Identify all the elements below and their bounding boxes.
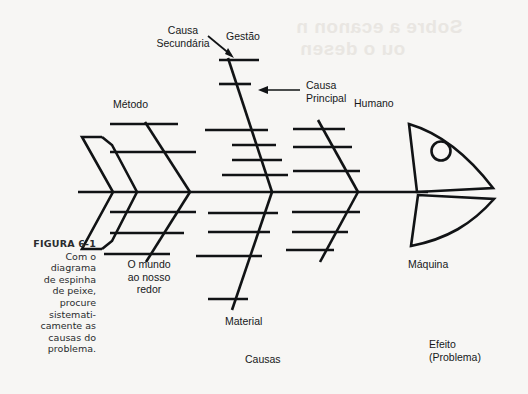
- label-causa-principal-line2: Principal: [306, 92, 346, 105]
- branch-metodo: [110, 122, 196, 192]
- label-gestao: Gestão: [226, 30, 260, 43]
- caption-line-3: de espinha: [18, 274, 96, 286]
- figure-caption: FIGURA 6-1 Com o diagrama de espinha de …: [18, 238, 96, 355]
- label-causa-principal-line1: Causa: [306, 79, 346, 92]
- label-causas: Causas: [245, 353, 281, 366]
- label-efeito-problema: Efeito (Problema): [429, 338, 481, 363]
- caption-line-6: sistemati-: [18, 309, 96, 321]
- arrow-causa-secundaria-head: [225, 48, 234, 58]
- label-mundo-line1: O mundo: [118, 258, 180, 271]
- label-mundo-line3: redor: [118, 283, 180, 296]
- branch-humano: [293, 120, 360, 192]
- branch-maquina-rib: [320, 192, 358, 262]
- fish-head-lower-fin: [411, 195, 494, 246]
- figure-container: Sobre a ecanon n ou o desen: [0, 0, 528, 394]
- branch-gestao-rib: [228, 58, 272, 192]
- branch-mundo-rib: [146, 192, 190, 262]
- caption-line-9: problema.: [18, 343, 96, 355]
- branch-material: [196, 192, 278, 310]
- caption-line-1: Com o: [18, 251, 96, 263]
- fish-eye: [432, 142, 451, 161]
- label-causa-secundaria-line2: Secundária: [146, 37, 220, 50]
- label-efeito-line1: Efeito: [429, 338, 481, 351]
- label-causa-secundaria-line1: Causa: [146, 24, 220, 37]
- caption-line-2: diagrama: [18, 262, 96, 274]
- label-mundo-line2: ao nosso: [118, 271, 180, 284]
- branch-material-rib: [232, 192, 272, 310]
- branch-metodo-rib: [145, 122, 190, 192]
- label-maquina: Máquina: [408, 258, 448, 271]
- label-o-mundo-ao-nosso-redor: O mundo ao nosso redor: [118, 258, 180, 296]
- branch-gestao-lower-subs: [205, 130, 288, 175]
- label-metodo: Método: [113, 98, 148, 111]
- branch-gestao: [219, 58, 272, 192]
- caption-line-7: camente as: [18, 320, 96, 332]
- fish-head-upper-fin: [409, 124, 493, 192]
- label-causa-secundaria: Causa Secundária: [146, 24, 220, 49]
- branch-humano-rib: [318, 120, 358, 192]
- label-causa-principal: Causa Principal: [306, 79, 346, 104]
- annotation-arrows: [208, 36, 300, 94]
- label-efeito-line2: (Problema): [429, 351, 481, 364]
- caption-line-8: causas do: [18, 332, 96, 344]
- arrow-causa-principal-head: [258, 86, 268, 94]
- figure-number: FIGURA 6-1: [18, 238, 96, 250]
- fish-head: [409, 124, 494, 246]
- caption-line-4: de peixe,: [18, 285, 96, 297]
- label-humano: Humano: [354, 97, 394, 110]
- branch-maquina: [286, 192, 360, 262]
- caption-line-5: procure: [18, 297, 96, 309]
- label-material: Material: [225, 315, 262, 328]
